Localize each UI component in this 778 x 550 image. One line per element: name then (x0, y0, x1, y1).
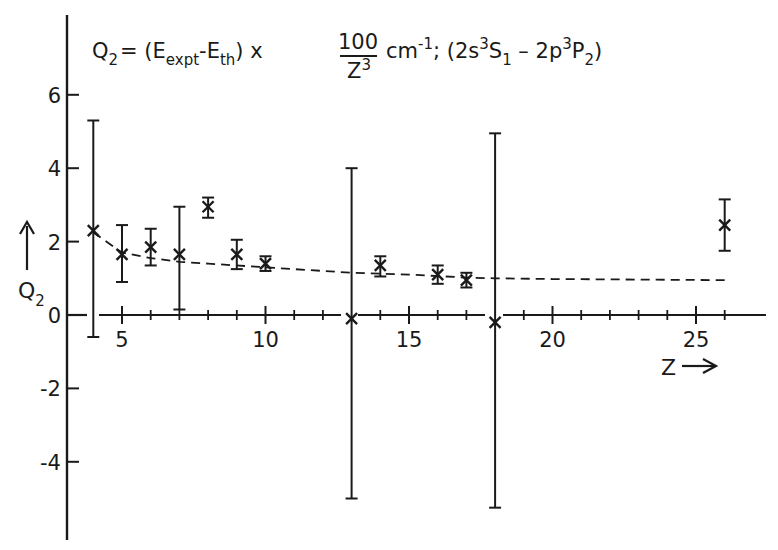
x-tick-label: 5 (115, 328, 128, 352)
y-tick-label: 0 (48, 304, 61, 328)
chart: Q2= (Eexpt-Eth) x 100 Z3 cm-1; (2s3S1 – … (0, 0, 778, 550)
data-point (489, 133, 501, 507)
x-axis-label-text: Z (661, 355, 676, 380)
data-point (346, 168, 358, 498)
title-frac-num: 100 (338, 30, 378, 54)
dashed-fit-line (93, 232, 724, 280)
x-tick-label: 20 (539, 328, 566, 352)
data-point (432, 265, 444, 283)
data-point (202, 198, 214, 218)
y-tick-label: 6 (48, 84, 61, 108)
y-tick-label: -4 (40, 451, 61, 475)
chart-title: Q2= (Eexpt-Eth) x 100 Z3 cm-1; (2s3S1 – … (92, 30, 602, 83)
x-axis-label: Z (661, 355, 716, 380)
axes: 6420-2-4510152025 (40, 15, 766, 540)
x-tick-label: 25 (683, 328, 710, 352)
data-point (719, 199, 731, 250)
data-point (260, 256, 272, 271)
y-axis-label: Q2 (18, 222, 45, 310)
data-point (145, 229, 157, 266)
title-units-transition: cm-1; (2s3S1 – 2p3P2) (386, 35, 602, 69)
fit-curve (93, 232, 724, 280)
title-frac-den: Z3 (347, 56, 371, 83)
y-tick-label: -2 (40, 377, 61, 401)
y-axis-label-text: Q2 (18, 278, 45, 310)
data-point (87, 120, 99, 337)
y-tick-label: 2 (48, 231, 61, 255)
y-tick-label: 4 (48, 157, 61, 181)
data-point (116, 225, 128, 282)
data-point (231, 240, 243, 269)
x-tick-label: 10 (252, 328, 279, 352)
svg-text:Q2= (Eexpt-Eth) x: Q2= (Eexpt-Eth) x (92, 39, 263, 69)
data-point (460, 273, 472, 288)
data-point (173, 207, 185, 310)
title-q: Q (92, 39, 109, 63)
x-tick-label: 15 (396, 328, 423, 352)
